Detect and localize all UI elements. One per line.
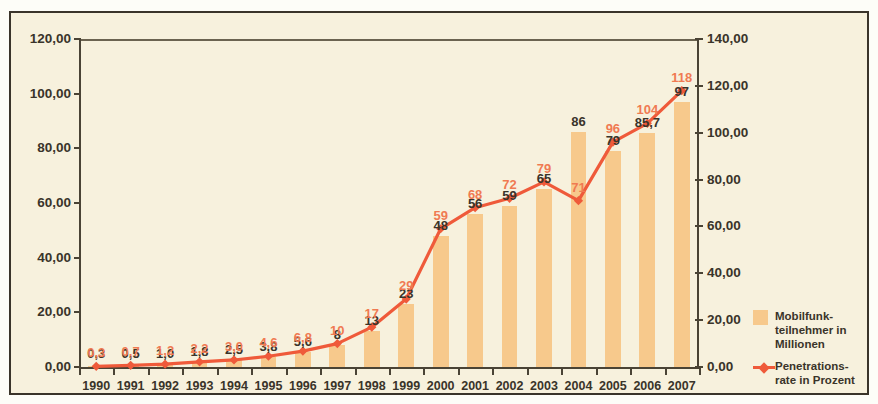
x-axis-tick-label: 1994 bbox=[217, 379, 251, 393]
legend-item-bars: Mobilfunk- teilnehmer in Millionen bbox=[753, 309, 877, 351]
y-axis-left-tick-label: 60,00 bbox=[37, 195, 71, 210]
bar-value-label: 79 bbox=[587, 134, 639, 147]
figure-header-strip bbox=[10, 0, 210, 10]
line-value-label: 104 bbox=[621, 103, 673, 116]
line-value-label: 72 bbox=[484, 178, 536, 191]
chart-panel: 0,30,51,01,82,53,85,68132348565965867985… bbox=[9, 11, 869, 395]
y-axis-right-tick-label: 60,00 bbox=[707, 218, 741, 233]
y-axis-right-tick-label: 100,00 bbox=[707, 125, 748, 140]
data-labels: 0,30,51,01,82,53,85,68132348565965867985… bbox=[79, 39, 699, 369]
line-value-label: 79 bbox=[518, 162, 570, 175]
legend-item-line: Penetrations- rate in Prozent bbox=[753, 359, 877, 387]
x-axis-tick-label: 2006 bbox=[630, 379, 664, 393]
y-axis-left-tick-label: 0,00 bbox=[45, 359, 71, 374]
y-axis-left-tick-label: 20,00 bbox=[37, 304, 71, 319]
legend-label-penetrationsrate: Penetrations- rate in Prozent bbox=[775, 359, 877, 387]
x-axis-tick-label: 2001 bbox=[458, 379, 492, 393]
y-axis-left-labels: 0,0020,0040,0060,0080,00100,00120,00 bbox=[3, 39, 71, 369]
x-axis-tick-label: 1993 bbox=[182, 379, 216, 393]
y-axis-right-tick-label: 20,00 bbox=[707, 312, 741, 327]
y-axis-left-tick-label: 120,00 bbox=[30, 31, 71, 46]
x-axis-tick-label: 2002 bbox=[492, 379, 526, 393]
y-axis-right-tick-label: 0,00 bbox=[707, 359, 733, 374]
line-value-label: 118 bbox=[656, 71, 708, 84]
y-axis-left-tick-label: 40,00 bbox=[37, 250, 71, 265]
legend-label-mobilfunkteilnehmer: Mobilfunk- teilnehmer in Millionen bbox=[775, 309, 877, 351]
line-value-label: 17 bbox=[346, 307, 398, 320]
x-axis-tick-label: 1991 bbox=[113, 379, 147, 393]
x-axis-tick-label: 2007 bbox=[665, 379, 699, 393]
chart-legend: Mobilfunk- teilnehmer in Millionen Penet… bbox=[753, 309, 877, 395]
x-axis-tick-label: 1992 bbox=[148, 379, 182, 393]
y-axis-left-tick-label: 80,00 bbox=[37, 140, 71, 155]
line-value-label: 10 bbox=[311, 324, 363, 337]
legend-swatch-icon bbox=[753, 310, 768, 325]
x-axis-tick-label: 1999 bbox=[389, 379, 423, 393]
line-value-label: 96 bbox=[587, 122, 639, 135]
y-axis-right-tick-label: 80,00 bbox=[707, 172, 741, 187]
legend-line-diamond-icon bbox=[753, 360, 768, 375]
plot-area: 0,30,51,01,82,53,85,68132348565965867985… bbox=[79, 39, 699, 369]
x-axis-tick-label: 1990 bbox=[79, 379, 113, 393]
x-axis-tick-label: 1996 bbox=[286, 379, 320, 393]
x-axis-tick-label: 1995 bbox=[251, 379, 285, 393]
y-axis-right-tick-label: 120,00 bbox=[707, 78, 748, 93]
bar-value-label: 97 bbox=[656, 85, 708, 98]
y-axis-right-tick-label: 140,00 bbox=[707, 31, 748, 46]
y-axis-right-tick-label: 40,00 bbox=[707, 265, 741, 280]
x-tick bbox=[699, 367, 701, 375]
x-axis-tick-label: 2000 bbox=[423, 379, 457, 393]
line-value-label: 71 bbox=[552, 181, 604, 194]
line-value-label: 59 bbox=[415, 209, 467, 222]
y-axis-left-tick-label: 100,00 bbox=[30, 86, 71, 101]
chart-figure: 0,30,51,01,82,53,85,68132348565965867985… bbox=[0, 0, 878, 404]
x-axis-tick-label: 1997 bbox=[320, 379, 354, 393]
x-axis-tick-label: 2004 bbox=[561, 379, 595, 393]
x-axis-tick-label: 1998 bbox=[355, 379, 389, 393]
x-axis-tick-label: 2005 bbox=[596, 379, 630, 393]
line-value-label: 29 bbox=[380, 279, 432, 292]
x-axis-tick-label: 2003 bbox=[527, 379, 561, 393]
